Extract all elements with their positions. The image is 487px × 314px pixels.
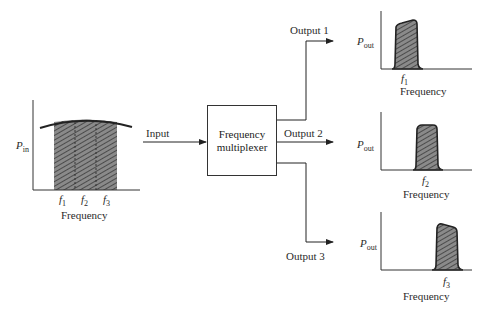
output-1-frequency-axis-label: Frequency (400, 85, 446, 97)
input-power-axis-label: Pin (16, 139, 29, 156)
input-label: Input (146, 127, 169, 139)
output-3-frequency-axis-label: Frequency (403, 290, 449, 302)
output-1-arrow (277, 41, 333, 120)
output-1-label: Output 1 (290, 24, 329, 36)
input-tick-f3: f3 (103, 193, 110, 210)
output-3-power-axis-label: Pout (360, 237, 377, 254)
output-2-label: Output 2 (284, 127, 323, 139)
input-spectrum-plot (33, 100, 140, 190)
input-frequency-axis-label: Frequency (61, 209, 107, 221)
output-2-frequency-axis-label: Frequency (403, 188, 449, 200)
output-3-spectrum-plot (381, 212, 472, 270)
input-tick-f2: f2 (81, 193, 88, 210)
output-1-power-axis-label: Pout (357, 35, 374, 52)
output-3-arrow (277, 163, 333, 242)
frequency-multiplexer-block: Frequency multiplexer (207, 105, 277, 176)
block-title-line-1: Frequency (219, 128, 265, 141)
output-3-label: Output 3 (286, 250, 325, 262)
output-2-power-axis-label: Pout (357, 138, 374, 155)
input-band-shading (54, 120, 117, 191)
input-tick-f1: f1 (59, 193, 66, 210)
output-1-spectrum-plot (381, 11, 472, 69)
block-title-line-2: multiplexer (217, 141, 268, 154)
output-2-spectrum-plot (381, 112, 472, 170)
